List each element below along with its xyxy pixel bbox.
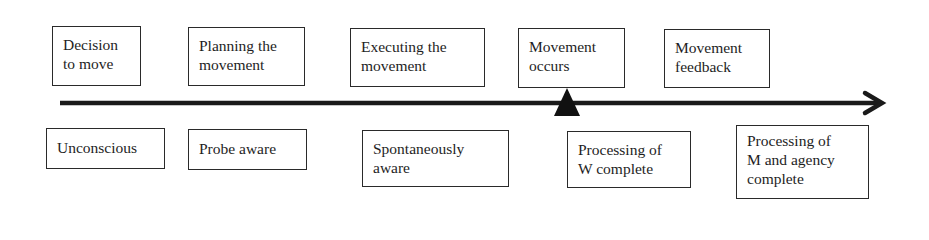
box-text-line: W complete [578, 159, 680, 178]
box-unconscious: Unconscious [46, 128, 165, 169]
box-processing-of-m-and-agency-complete: Processing of M and agency complete [736, 125, 869, 199]
box-text-line: aware [373, 158, 498, 177]
box-text-line: Movement [529, 37, 614, 56]
box-text-line: occurs [529, 56, 614, 75]
box-movement-occurs: Movement occurs [518, 28, 625, 88]
box-text-line: Unconscious [57, 138, 154, 157]
box-text-line: Executing the [361, 37, 474, 56]
box-text-line: Decision [63, 35, 130, 54]
box-probe-aware: Probe aware [188, 129, 307, 170]
box-text-line: Spontaneously [373, 139, 498, 158]
box-text-line: movement [199, 55, 294, 74]
box-movement-feedback: Movement feedback [664, 29, 770, 88]
box-text-line: M and agency [747, 150, 858, 169]
box-text-line: complete [747, 169, 858, 188]
box-processing-of-w-complete: Processing of W complete [567, 131, 691, 188]
box-text-line: Movement [675, 38, 759, 57]
box-text-line: movement [361, 56, 474, 75]
box-text-line: Processing of [747, 131, 858, 150]
box-text-line: Planning the [199, 36, 294, 55]
box-executing-the-movement: Executing the movement [350, 28, 485, 87]
box-planning-the-movement: Planning the movement [188, 27, 305, 86]
box-text-line: Probe aware [199, 139, 296, 158]
box-text-line: Processing of [578, 140, 680, 159]
box-decision-to-move: Decision to move [52, 26, 141, 86]
box-text-line: feedback [675, 57, 759, 76]
box-text-line: to move [63, 54, 130, 73]
box-spontaneously-aware: Spontaneously aware [362, 130, 509, 187]
